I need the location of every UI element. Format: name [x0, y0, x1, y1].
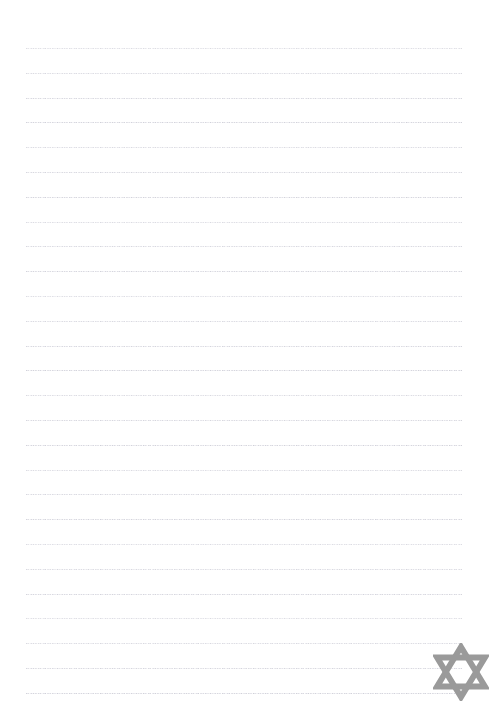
ruled-line [26, 122, 462, 123]
ruled-line [26, 618, 462, 619]
ruled-line [26, 172, 462, 173]
ruled-line [26, 346, 462, 347]
ruled-line [26, 296, 462, 297]
ruled-line [26, 98, 462, 99]
ruled-line [26, 370, 462, 371]
ruled-line [26, 494, 462, 495]
ruled-line [26, 420, 462, 421]
ruled-line [26, 48, 462, 49]
ruled-line [26, 643, 462, 644]
ruled-line [26, 271, 462, 272]
ruled-line [26, 73, 462, 74]
ruled-line [26, 321, 462, 322]
star-of-david-icon [433, 643, 489, 701]
ruled-line [26, 395, 462, 396]
ruled-line [26, 569, 462, 570]
ruled-line [26, 544, 462, 545]
ruled-line [26, 445, 462, 446]
ruled-line [26, 197, 462, 198]
ruled-lines-layer [0, 0, 497, 718]
notepaper-page [0, 0, 497, 718]
ruled-line [26, 470, 462, 471]
ruled-line [26, 594, 462, 595]
ruled-line [26, 222, 462, 223]
ruled-line [26, 668, 462, 669]
ruled-line [26, 147, 462, 148]
ruled-line [26, 693, 462, 694]
ruled-line [26, 519, 462, 520]
ruled-line [26, 246, 462, 247]
